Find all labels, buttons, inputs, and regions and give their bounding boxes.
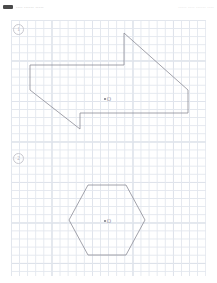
- center-marker-2: O: [104, 218, 111, 224]
- center-marker-1: O: [104, 96, 111, 102]
- section-badge-1: 1: [13, 24, 24, 35]
- graph-paper-grid: [11, 20, 206, 276]
- section-badge-2: 2: [13, 153, 24, 164]
- app-logo-icon: [3, 5, 13, 9]
- center-dot-1: [104, 98, 106, 100]
- center-label-2: O: [107, 218, 111, 224]
- header-text-primary: •••• •••••• •••••: [16, 5, 44, 10]
- center-dot-2: [104, 220, 106, 222]
- app-header: •••• •••••• ••••• ••••• •••• •••••• ••••: [0, 0, 217, 14]
- center-label-1: O: [107, 96, 111, 102]
- worksheet-sheet: 1 2 O O: [0, 14, 217, 283]
- header-text-secondary: ••••• •••• •••••• ••••: [178, 5, 214, 10]
